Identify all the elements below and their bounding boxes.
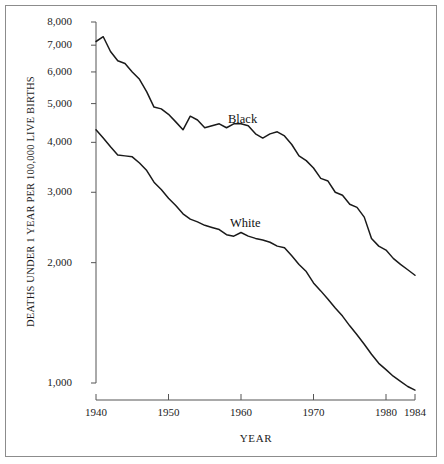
data-line-black	[96, 37, 415, 276]
y-tick-label: 5,000	[26, 97, 72, 109]
y-tick-label: 7,000	[26, 38, 72, 50]
y-tick-label: 4,000	[26, 135, 72, 147]
y-tick-label: 1,000	[26, 376, 72, 388]
data-lines-group	[96, 37, 415, 390]
data-line-white	[96, 130, 415, 390]
infant-mortality-line-chart: DEATHS UNDER 1 YEAR PER 100,000 LIVE BIR…	[0, 0, 444, 464]
x-tick-label: 1984	[385, 406, 444, 418]
y-tick-label: 2,000	[26, 256, 72, 268]
chart-page: DEATHS UNDER 1 YEAR PER 100,000 LIVE BIR…	[0, 0, 444, 464]
x-axis-title: YEAR	[96, 432, 416, 444]
y-tick-label-group: 8,0007,0006,0005,0004,0003,0002,0001,000	[20, 0, 72, 464]
y-tick-label: 6,000	[26, 65, 72, 77]
x-tick-label: 1960	[211, 406, 271, 418]
x-tick-label: 1940	[66, 406, 126, 418]
y-tick-label: 3,000	[26, 185, 72, 197]
x-tick-label: 1950	[139, 406, 199, 418]
x-tick-label: 1970	[284, 406, 344, 418]
y-tick-label: 8,000	[26, 15, 72, 27]
series-label-black: Black	[228, 112, 257, 127]
series-label-white: White	[230, 216, 261, 231]
